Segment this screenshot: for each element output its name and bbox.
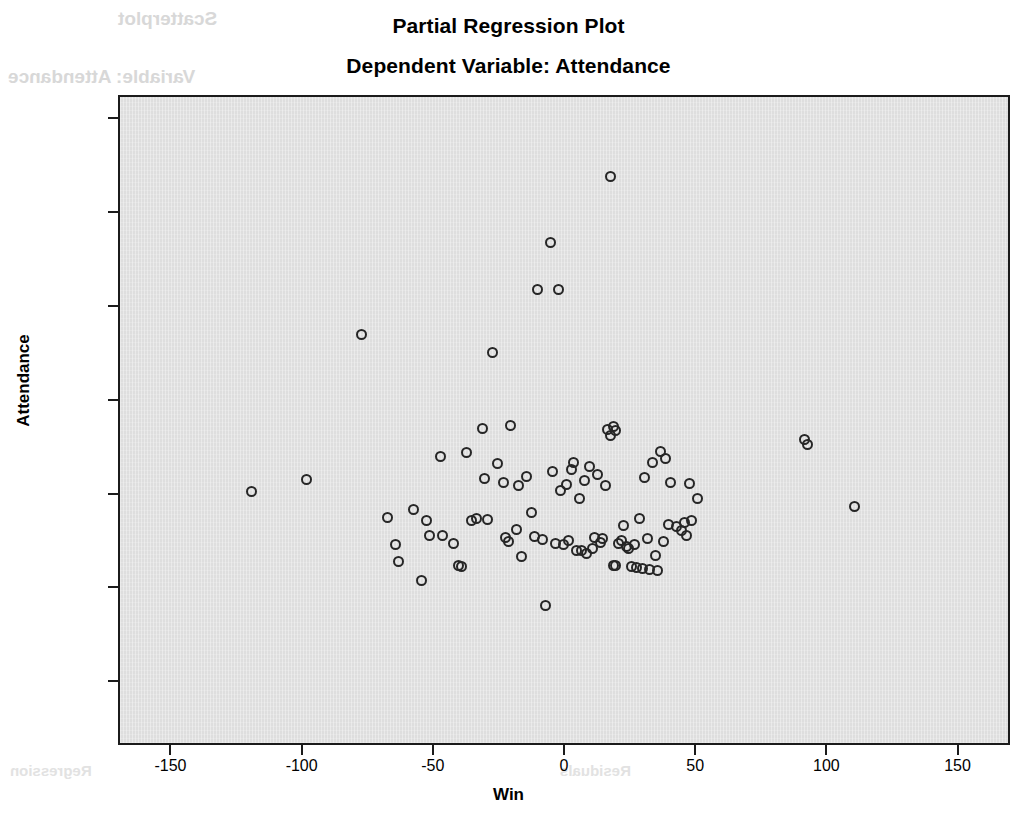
x-axis-tick-label: -50 [388,758,478,774]
scatter-point [647,457,658,468]
scatter-point [390,539,401,550]
scatter-point [487,347,498,358]
scatter-point [505,420,516,431]
y-axis-tick-mark [108,211,118,213]
scatter-point [516,551,527,562]
y-axis-tick-mark [108,680,118,682]
scatter-point [660,453,671,464]
scatter-point [356,329,367,340]
scatter-point [652,565,663,576]
scatter-point [526,507,537,518]
chart-title: Partial Regression Plot [0,14,1017,38]
x-axis-tick-label: -100 [257,758,347,774]
scatter-point [435,451,446,462]
scatter-point [498,477,509,488]
scatter-point [479,473,490,484]
scatter-point [477,423,488,434]
x-axis-tick-mark [301,745,303,755]
scatter-point [545,237,556,248]
scatter-point [416,575,427,586]
scatter-point [513,480,524,491]
scatter-point [461,447,472,458]
scatter-point [658,536,669,547]
scatter-point [686,515,697,526]
scatter-point [471,513,482,524]
scatter-point [634,513,645,524]
scatter-point [574,493,585,504]
scatter-point [511,524,522,535]
scatter-point [629,539,640,550]
x-axis-tick-label: 0 [519,758,609,774]
y-axis-title: Attendance [15,321,32,441]
scatter-point [393,556,404,567]
scatter-point [408,504,419,515]
scatter-point [456,561,467,572]
scatter-point [448,538,459,549]
scatter-point [482,514,493,525]
y-axis-tick-mark [108,117,118,119]
scatter-point [421,515,432,526]
scatter-point [665,477,676,488]
scatter-point [600,480,611,491]
scatter-point [592,469,603,480]
scatter-point [540,600,551,611]
y-axis-tick-mark [108,399,118,401]
y-axis-tick-mark [108,305,118,307]
scatter-point [532,284,543,295]
scatter-point [610,560,621,571]
scatter-point [692,493,703,504]
y-axis-tick-mark [108,586,118,588]
scatter-point [568,457,579,468]
scatter-point [561,479,572,490]
scatter-point [553,284,564,295]
scatter-point [681,530,692,541]
x-axis-title: Win [0,786,1017,803]
x-axis-tick-label: 150 [913,758,1003,774]
scatter-point [437,530,448,541]
scatter-point [605,171,616,182]
scatter-point [579,475,590,486]
x-axis-tick-mark [957,745,959,755]
chart-title-block: Partial Regression Plot Dependent Variab… [0,0,1017,78]
scatter-point [424,530,435,541]
scatter-point [684,478,695,489]
scatter-point [492,458,503,469]
x-axis-tick-label: -150 [125,758,215,774]
scatter-point [618,520,629,531]
scatter-point [521,471,532,482]
scatter-point [650,550,661,561]
scatter-point [849,501,860,512]
scatter-point [563,535,574,546]
scatter-point [503,536,514,547]
scatter-point [597,533,608,544]
scatter-point [547,466,558,477]
x-axis-tick-mark [169,745,171,755]
scatter-point [802,439,813,450]
x-axis-tick-mark [432,745,434,755]
scan-bleed-artifact-bottom-1: Regression [10,762,92,779]
x-axis-tick-mark [825,745,827,755]
scatter-point [537,534,548,545]
scatter-point [382,512,393,523]
plot-area [118,95,1010,745]
x-axis-tick-label: 100 [781,758,871,774]
x-axis-tick-mark [694,745,696,755]
x-axis-tick-mark [563,745,565,755]
chart-subtitle: Dependent Variable: Attendance [0,54,1017,78]
scatter-point [610,425,621,436]
scatter-points-layer [120,97,1008,743]
y-axis-tick-mark [108,493,118,495]
scatter-point [246,486,257,497]
scatter-point [301,474,312,485]
x-axis-tick-label: 50 [650,758,740,774]
scatter-point [639,472,650,483]
scatter-point [642,533,653,544]
